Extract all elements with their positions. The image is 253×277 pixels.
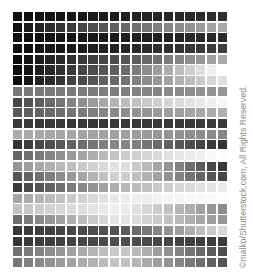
grid-cell [207,87,216,96]
grid-cell [35,162,44,171]
grid-cell [185,204,194,213]
grid-cell [24,98,33,107]
grid-cell [153,33,162,42]
grid-cell [67,108,76,117]
grid-cell [56,247,65,256]
grid-cell [88,237,97,246]
grid-cell [142,162,151,171]
grid-cell [24,119,33,128]
grid-cell [24,140,33,149]
grid-cell [121,12,130,21]
grid-cell [142,194,151,203]
grid-cell [78,87,87,96]
grid-cell [110,204,119,213]
grid-cell [45,98,54,107]
grid-cell [175,215,184,224]
grid-cell [132,140,141,149]
grid-cell [110,247,119,256]
grid-cell [121,119,130,128]
grid-cell [207,151,216,160]
grid-cell [99,76,108,85]
grid-cell [185,55,194,64]
grid-cell [99,151,108,160]
grid-cell [88,151,97,160]
grid-cell [153,247,162,256]
grid-cell [153,44,162,53]
grid-cell [110,215,119,224]
grid-cell [99,215,108,224]
grid-cell [142,98,151,107]
grid-cell [175,108,184,117]
grid-cell [45,258,54,267]
grid-cell [110,12,119,21]
grid-cell [132,76,141,85]
grid-cell [56,12,65,21]
grid-cell [67,130,76,139]
grid-cell [185,76,194,85]
grid-cell [24,108,33,117]
grid-cell [132,87,141,96]
grid-cell [78,108,87,117]
grid-cell [164,151,173,160]
grid-cell [164,44,173,53]
grid-cell [142,108,151,117]
grid-cell [35,140,44,149]
grid-cell [24,172,33,181]
grid-cell [185,194,194,203]
grid-cell [164,258,173,267]
grid-cell [207,33,216,42]
grid-cell [153,23,162,32]
grid-cell [218,23,227,32]
grid-cell [196,130,205,139]
grid-cell [13,12,22,21]
grid-cell [175,247,184,256]
grid-cell [196,55,205,64]
grid-cell [45,130,54,139]
grid-cell [13,98,22,107]
grid-cell [207,204,216,213]
grid-cell [196,247,205,256]
grid-cell [121,162,130,171]
grid-cell [175,183,184,192]
grid-cell [110,237,119,246]
grid-cell [99,119,108,128]
grid-cell [196,33,205,42]
grid-cell [35,204,44,213]
grid-cell [13,33,22,42]
grid-cell [13,55,22,64]
grid-cell [185,226,194,235]
grid-cell [207,65,216,74]
grid-cell [99,162,108,171]
grid-cell [45,33,54,42]
grid-cell [132,108,141,117]
grid-cell [218,151,227,160]
grid-cell [142,215,151,224]
grid-cell [35,12,44,21]
grid-cell [45,215,54,224]
grid-cell [88,247,97,256]
grid-cell [196,140,205,149]
grid-cell [67,226,76,235]
grid-cell [78,23,87,32]
grid-cell [67,119,76,128]
grid-cell [121,108,130,117]
grid-cell [207,258,216,267]
grid-cell [153,237,162,246]
grid-cell [121,183,130,192]
grid-cell [45,226,54,235]
grid-cell [67,194,76,203]
grid-cell [99,172,108,181]
grid-cell [196,172,205,181]
grid-cell [185,183,194,192]
grid-cell [196,237,205,246]
grid-cell [175,258,184,267]
grid-cell [153,12,162,21]
grid-cell [142,172,151,181]
grid-cell [24,237,33,246]
grid-cell [67,237,76,246]
grid-cell [153,226,162,235]
grid-cell [196,183,205,192]
grid-cell [56,140,65,149]
grid-cell [207,12,216,21]
grid-cell [35,194,44,203]
